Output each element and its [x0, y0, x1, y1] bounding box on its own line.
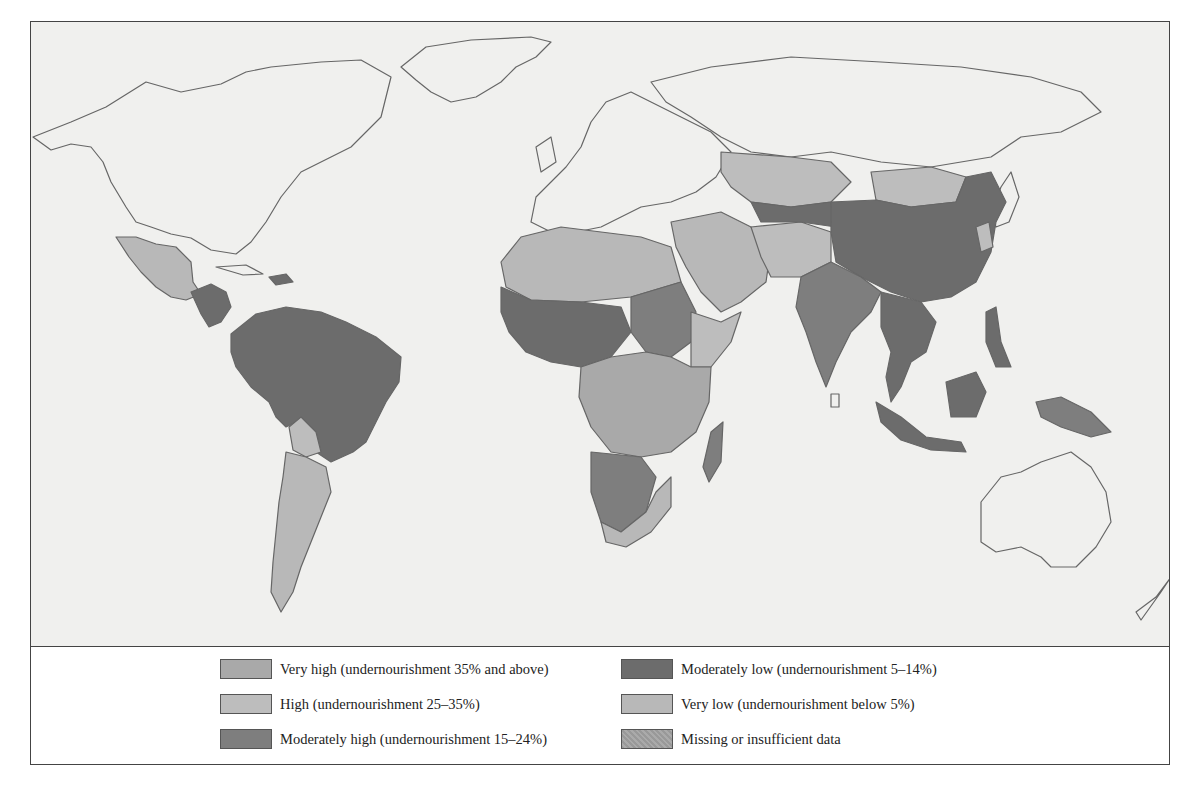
legend-swatch-very-high [220, 659, 272, 679]
southeast-asia [881, 292, 936, 402]
madagascar [703, 422, 723, 482]
legend-item-moderately-high: Moderately high (undernourishment 15–24%… [220, 729, 547, 749]
greenland [401, 37, 551, 102]
central-america [191, 284, 231, 327]
hispaniola [269, 274, 293, 285]
map-frame: Very high (undernourishment 35% and abov… [30, 21, 1170, 765]
legend-item-very-low: Very low (undernourishment below 5%) [621, 694, 915, 714]
southern-cone [271, 452, 331, 612]
uk [536, 137, 556, 172]
world-map [31, 22, 1169, 647]
borneo [946, 372, 986, 417]
kazakhstan [721, 152, 851, 207]
legend-label: High (undernourishment 25–35%) [280, 696, 480, 713]
legend-item-very-high: Very high (undernourishment 35% and abov… [220, 659, 549, 679]
legend-label: Missing or insufficient data [681, 731, 841, 748]
legend-item-high: High (undernourishment 25–35%) [220, 694, 480, 714]
legend-item-moderately-low: Moderately low (undernourishment 5–14%) [621, 659, 937, 679]
sri-lanka [831, 394, 839, 407]
new-zealand [1136, 577, 1169, 620]
world-map-svg [31, 22, 1169, 646]
new-guinea [1036, 397, 1111, 437]
central-east-africa [579, 352, 711, 457]
legend-label: Moderately low (undernourishment 5–14%) [681, 661, 937, 678]
legend: Very high (undernourishment 35% and abov… [31, 647, 1169, 765]
legend-swatch-missing [621, 729, 673, 749]
australia [981, 452, 1111, 567]
legend-item-missing: Missing or insufficient data [621, 729, 841, 749]
horn-of-africa [691, 312, 741, 367]
legend-label: Very low (undernourishment below 5%) [681, 696, 915, 713]
legend-swatch-moderately-high [220, 729, 272, 749]
legend-label: Moderately high (undernourishment 15–24%… [280, 731, 547, 748]
mexico [116, 237, 201, 300]
legend-swatch-very-low [621, 694, 673, 714]
mongolia [871, 167, 966, 207]
legend-swatch-moderately-low [621, 659, 673, 679]
north-america-landmass [33, 60, 391, 254]
philippines [986, 307, 1011, 367]
legend-label: Very high (undernourishment 35% and abov… [280, 661, 549, 678]
legend-swatch-high [220, 694, 272, 714]
cuba [216, 265, 263, 275]
